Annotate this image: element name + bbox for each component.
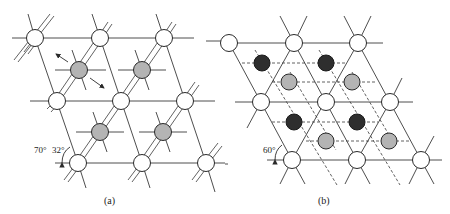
lattice-site — [413, 152, 430, 169]
lattice-site — [92, 30, 109, 47]
caption-a: (a) — [104, 195, 115, 207]
interstitial-site — [92, 124, 109, 141]
lattice-site — [49, 93, 66, 110]
panel-b: 60° (b) — [220, 16, 442, 207]
sublattice-a-site — [254, 55, 270, 71]
lattice-site — [113, 93, 130, 110]
sublattice-b-site — [381, 133, 397, 149]
panel-a: 70° 32° (a) — [12, 14, 225, 207]
lattice-site — [349, 152, 366, 169]
lattice-site — [318, 94, 335, 111]
lattice-site — [177, 93, 194, 110]
lattice-site — [27, 30, 44, 47]
lattice-site — [253, 94, 270, 111]
lattice-diagram: 70° 32° (a) — [0, 0, 450, 214]
displacement-arrow-up-left — [56, 54, 68, 62]
angle-label-60: 60° — [263, 145, 276, 155]
lattice-site — [284, 152, 301, 169]
interstitial-site — [155, 124, 172, 141]
lattice-site — [156, 30, 173, 47]
sublattice-a-site — [286, 114, 302, 130]
dark-nodes-b — [254, 55, 365, 130]
lattice-site — [134, 155, 151, 172]
displacement-arrow-down-right — [90, 78, 104, 88]
angle-label-32: 32° — [52, 145, 65, 155]
lattice-site — [70, 155, 87, 172]
lattice-site — [221, 35, 238, 52]
angle-label-70: 70° — [34, 145, 47, 155]
lattice-site — [350, 35, 367, 52]
sublattice-a-site — [349, 114, 365, 130]
lattice-site — [286, 35, 303, 52]
sublattice-b-site — [318, 133, 334, 149]
angle-arc-b — [275, 145, 282, 160]
interstitial-site — [71, 62, 88, 79]
sublattice-a-site — [318, 55, 334, 71]
caption-b: (b) — [318, 195, 330, 207]
sublattice-b-site — [344, 74, 360, 90]
lattice-site — [382, 94, 399, 111]
gray-nodes-b — [281, 74, 397, 149]
interstitial-site — [134, 62, 151, 79]
lattice-site — [198, 155, 215, 172]
sublattice-b-site — [281, 74, 297, 90]
